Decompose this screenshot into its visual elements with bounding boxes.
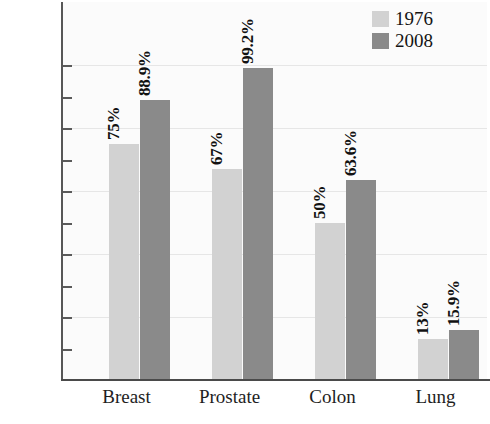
legend-swatch-icon-1976 [372, 11, 389, 27]
bar-group-breast: 75% 88.9% [109, 2, 170, 380]
bar-value-lung-2008: 15.9% [444, 280, 464, 326]
bar-colon-2008[interactable]: 63.6% [346, 180, 376, 380]
category-label-colon: Colon [285, 386, 380, 408]
bar-value-colon-1976: 50% [310, 185, 330, 218]
legend-item-2008[interactable]: 2008 [372, 31, 433, 50]
bar-group-colon: 50% 63.6% [315, 2, 376, 380]
bar-value-breast-1976: 75% [104, 106, 124, 139]
legend-swatch-icon-2008 [372, 33, 389, 49]
bar-breast-1976[interactable]: 75% [109, 144, 139, 380]
x-axis-line [61, 379, 490, 381]
bars-layer: 75% 88.9% 67% 99.2% [63, 2, 487, 380]
bar-breast-2008[interactable]: 88.9% [140, 100, 170, 380]
category-label-prostate: Prostate [182, 386, 277, 408]
bar-prostate-2008[interactable]: 99.2% [243, 68, 273, 380]
bar-lung-2008[interactable]: 15.9% [449, 330, 479, 380]
legend: 1976 2008 [372, 9, 433, 50]
y-axis-line [61, 2, 63, 380]
bar-value-prostate-2008: 99.2% [238, 18, 258, 64]
bar-colon-1976[interactable]: 50% [315, 223, 345, 381]
bar-prostate-1976[interactable]: 67% [212, 169, 242, 380]
bar-value-prostate-1976: 67% [207, 132, 227, 165]
bar-value-colon-2008: 63.6% [341, 130, 361, 176]
legend-item-1976[interactable]: 1976 [372, 9, 433, 28]
bar-lung-1976[interactable]: 13% [418, 339, 448, 380]
bar-value-lung-1976: 13% [413, 302, 433, 335]
bar-value-breast-2008: 88.9% [135, 50, 155, 96]
category-label-breast: Breast [79, 386, 174, 408]
bar-group-prostate: 67% 99.2% [212, 2, 273, 380]
bar-group-lung: 13% 15.9% [418, 2, 479, 380]
category-label-lung: Lung [388, 386, 483, 408]
legend-label-1976: 1976 [395, 9, 433, 28]
legend-label-2008: 2008 [395, 31, 433, 50]
bar-chart: 100% 90% 80% 70% 60% 50% 40% 30% 20% 10%… [0, 0, 490, 424]
